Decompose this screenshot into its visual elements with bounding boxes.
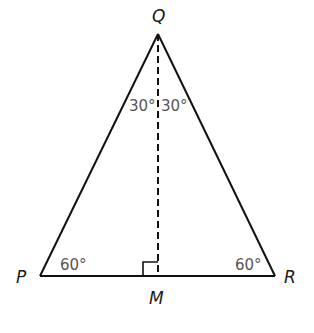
vertex-label-r: R [284, 267, 296, 287]
vertex-label-p: P [16, 267, 27, 287]
vertex-label-m: M [149, 288, 164, 308]
right-angle-marker [143, 262, 158, 276]
triangle-diagram: Q P R M 30° 30° 60° 60° [0, 0, 314, 333]
side-pq [40, 34, 158, 276]
angle-label-p: 60° [60, 256, 87, 274]
side-qr [158, 34, 275, 276]
angle-label-q-right: 30° [161, 97, 188, 115]
angle-label-q-left: 30° [129, 97, 156, 115]
vertex-label-q: Q [152, 6, 165, 26]
angle-label-r: 60° [235, 256, 262, 274]
